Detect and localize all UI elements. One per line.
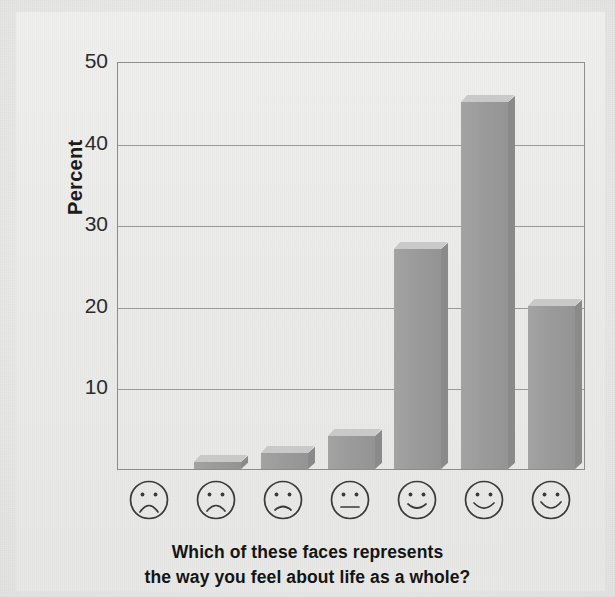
bar-front-face — [328, 436, 375, 469]
bar-side-face — [441, 242, 448, 469]
bar — [194, 462, 241, 469]
slightly-happy-face-icon — [395, 478, 439, 522]
x-axis-face-icons — [117, 478, 585, 530]
very-happy-face-icon — [529, 478, 573, 522]
bar-top-face — [528, 299, 581, 306]
bar-side-face — [375, 430, 382, 469]
bar — [528, 306, 575, 469]
bar-top-face — [461, 95, 514, 102]
bar-side-face — [575, 300, 582, 469]
sad-face-icon — [194, 478, 238, 522]
very-sad-face-icon — [127, 478, 171, 522]
plot-area — [117, 62, 585, 470]
y-tick-label: 50 — [70, 49, 108, 73]
bar — [461, 102, 508, 469]
bar-front-face — [461, 102, 508, 469]
bar — [394, 249, 441, 469]
bar-top-face — [261, 446, 314, 453]
y-tick-label: 10 — [70, 375, 108, 399]
caption-line-1: Which of these faces represents — [0, 540, 615, 565]
bar-front-face — [394, 249, 441, 469]
bar-chart: Percent 5040302010 Which of these faces … — [0, 0, 615, 597]
bar-side-face — [508, 96, 515, 469]
slightly-sad-face-icon — [261, 478, 305, 522]
chart-caption: Which of these faces represents the way … — [0, 540, 615, 590]
bar — [328, 436, 375, 469]
bar-front-face — [194, 462, 241, 469]
y-tick-label: 30 — [70, 212, 108, 236]
happy-face-icon — [462, 478, 506, 522]
bar-front-face — [261, 453, 308, 469]
caption-line-2: the way you feel about life as a whole? — [0, 565, 615, 590]
y-axis-ticks: 5040302010 — [64, 62, 108, 470]
bar-top-face — [394, 242, 447, 249]
bar-top-face — [328, 429, 381, 436]
neutral-face-icon — [328, 478, 372, 522]
bar — [261, 453, 308, 469]
y-tick-label: 40 — [70, 131, 108, 155]
bar-front-face — [528, 306, 575, 469]
y-tick-label: 20 — [70, 294, 108, 318]
bar-top-face — [194, 455, 247, 462]
